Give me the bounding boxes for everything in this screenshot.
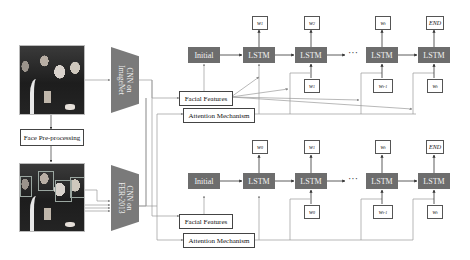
output-word-top-1: w1: [252, 16, 268, 30]
lstm-label: LSTM: [248, 51, 269, 60]
lstm-block-bottom-3: LSTM: [366, 173, 398, 189]
output-word-top-2: w2: [304, 16, 320, 30]
output-word-bottom-3: wt: [375, 140, 391, 154]
output-word-bottom-end: END: [426, 140, 444, 154]
input-word-top-1: w1: [304, 79, 320, 93]
face-detection-box: [38, 171, 54, 192]
cnn-top-line2: ImageNet: [117, 65, 126, 95]
lstm-block-bottom-2: LSTM: [295, 173, 327, 189]
ellipsis-bottom: ···: [348, 173, 358, 184]
cnn-imagenet-block: CNN onImageNet: [111, 47, 139, 113]
input-word-top-2: wt-1: [373, 79, 393, 93]
initial-label: Initial: [194, 51, 213, 60]
facial-features-box-top: Facial Features: [179, 91, 233, 106]
face-preprocessing-box: Face Pre-processing: [20, 129, 84, 146]
lstm-label: LSTM: [300, 177, 321, 186]
initial-label: Initial: [194, 177, 213, 186]
lstm-block-top-1: LSTM: [243, 47, 275, 63]
cnn-top-line1: CNN on: [125, 67, 134, 92]
lstm-label: LSTM: [371, 177, 392, 186]
lstm-block-bottom-1: LSTM: [243, 173, 275, 189]
lstm-block-top-3: LSTM: [366, 47, 398, 63]
attention-mechanism-label: Attention Mechanism: [189, 112, 250, 120]
lstm-label: LSTM: [248, 177, 269, 186]
cnn-fer2013-block: CNN onFER-2013: [111, 165, 139, 231]
lstm-label: LSTM: [371, 51, 392, 60]
lstm-block-top-4: LSTM: [418, 47, 450, 63]
attention-mechanism-box-bottom: Attention Mechanism: [183, 233, 255, 248]
ellipsis-top: ···: [348, 47, 358, 58]
input-photo-raw: [19, 45, 85, 115]
cnn-bottom-line1: CNN on: [125, 185, 134, 210]
face-detection-box: [70, 177, 85, 198]
face-detection-box: [20, 176, 32, 197]
attention-mechanism-label: Attention Mechanism: [189, 237, 250, 245]
lstm-block-top-2: LSTM: [295, 47, 327, 63]
cnn-bottom-line2: FER-2013: [117, 182, 126, 213]
face-preprocessing-label: Face Pre-processing: [24, 134, 81, 142]
facial-features-label: Facial Features: [185, 218, 228, 226]
output-word-bottom-2: w1: [304, 140, 320, 154]
attention-mechanism-box-top: Attention Mechanism: [183, 108, 255, 123]
initial-block-bottom: Initial: [188, 173, 220, 189]
input-word-top-3: wt: [427, 79, 443, 93]
output-word-bottom-1: w0: [252, 140, 268, 154]
lstm-label: LSTM: [423, 51, 444, 60]
input-word-bottom-2: wt-1: [373, 205, 393, 219]
lstm-label: LSTM: [423, 177, 444, 186]
initial-block-top: Initial: [188, 47, 220, 63]
facial-features-box-bottom: Facial Features: [179, 214, 233, 229]
facial-features-label: Facial Features: [185, 95, 228, 103]
input-word-bottom-3: wt: [427, 205, 443, 219]
lstm-label: LSTM: [300, 51, 321, 60]
lstm-block-bottom-4: LSTM: [418, 173, 450, 189]
output-word-top-3: wt: [375, 16, 391, 30]
input-photo-faces: [19, 163, 85, 232]
input-word-bottom-1: w0: [304, 205, 320, 219]
output-word-top-end: END: [426, 16, 444, 30]
